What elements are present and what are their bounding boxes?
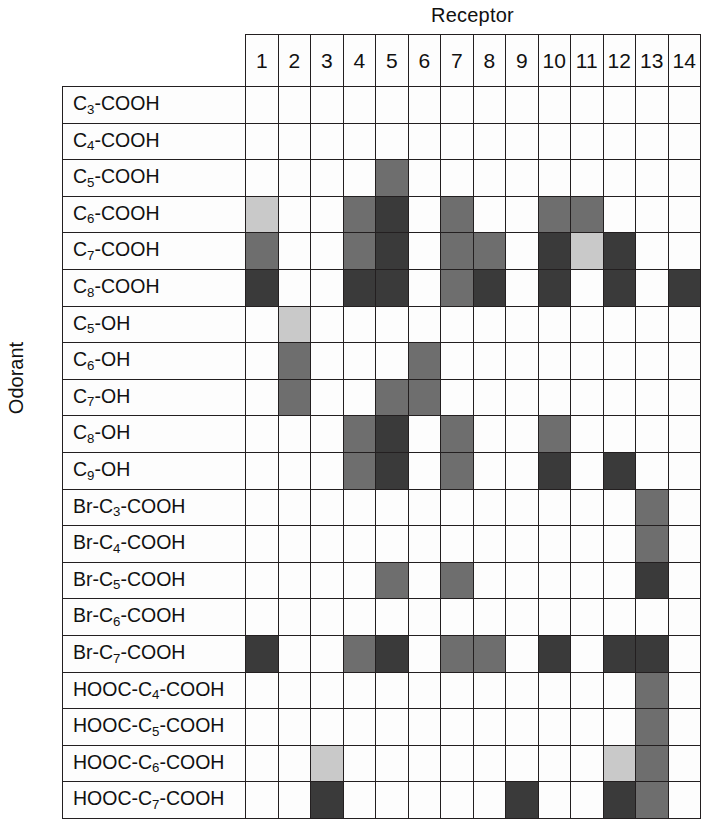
heatmap-cell xyxy=(636,196,669,233)
heatmap-cell xyxy=(408,416,441,453)
heatmap-cell xyxy=(473,489,506,526)
odorant-row-label: Br-C7-COOH xyxy=(63,635,246,672)
heatmap-cell xyxy=(571,745,604,782)
heatmap-cell xyxy=(246,635,279,672)
heatmap-cell xyxy=(506,489,539,526)
heatmap-cell xyxy=(668,379,701,416)
heatmap-cell xyxy=(571,306,604,343)
heatmap-cell xyxy=(311,269,344,306)
heatmap-cell xyxy=(473,123,506,160)
heatmap-cell xyxy=(506,379,539,416)
heatmap-cell xyxy=(636,709,669,746)
heatmap-cell xyxy=(376,489,409,526)
heatmap-cell xyxy=(441,87,474,124)
heatmap-cell xyxy=(441,599,474,636)
heatmap-cell xyxy=(636,672,669,709)
heatmap-cell xyxy=(441,672,474,709)
heatmap-cell xyxy=(571,269,604,306)
odorant-row-label: C4-COOH xyxy=(63,123,246,160)
heatmap-cell xyxy=(311,343,344,380)
heatmap-cell xyxy=(278,160,311,197)
odorant-row-label: Br-C4-COOH xyxy=(63,526,246,563)
heatmap-cell xyxy=(376,233,409,270)
heatmap-cell xyxy=(636,526,669,563)
heatmap-cell xyxy=(473,87,506,124)
heatmap-cell xyxy=(603,782,636,819)
heatmap-cell xyxy=(506,306,539,343)
heatmap-cell xyxy=(538,123,571,160)
heatmap-cell xyxy=(376,416,409,453)
heatmap-cell xyxy=(506,526,539,563)
heatmap-cell xyxy=(473,745,506,782)
heatmap-cell xyxy=(571,160,604,197)
heatmap-cell xyxy=(408,782,441,819)
heatmap-cell xyxy=(636,635,669,672)
heatmap-cell xyxy=(408,306,441,343)
heatmap-cell xyxy=(571,672,604,709)
heatmap-cell xyxy=(441,123,474,160)
heatmap-cell xyxy=(408,160,441,197)
heatmap-cell xyxy=(311,87,344,124)
heatmap-cell xyxy=(376,379,409,416)
heatmap-cell xyxy=(311,599,344,636)
matrix-row: Br-C7-COOH xyxy=(63,635,701,672)
matrix-row: C5-OH xyxy=(63,306,701,343)
heatmap-cell xyxy=(603,635,636,672)
heatmap-cell xyxy=(571,489,604,526)
heatmap-cell xyxy=(506,160,539,197)
heatmap-cell xyxy=(278,489,311,526)
matrix-row: C9-OH xyxy=(63,452,701,489)
heatmap-cell xyxy=(408,709,441,746)
heatmap-cell xyxy=(343,526,376,563)
receptor-column-header: 8 xyxy=(473,35,506,87)
heatmap-cell xyxy=(473,379,506,416)
heatmap-cell xyxy=(311,489,344,526)
heatmap-cell xyxy=(571,343,604,380)
heatmap-cell xyxy=(246,233,279,270)
heatmap-cell xyxy=(636,782,669,819)
heatmap-cell xyxy=(571,782,604,819)
heatmap-cell xyxy=(473,709,506,746)
heatmap-cell xyxy=(343,452,376,489)
matrix-row: C3-COOH xyxy=(63,87,701,124)
heatmap-cell xyxy=(603,599,636,636)
heatmap-cell xyxy=(538,745,571,782)
heatmap-cell xyxy=(668,672,701,709)
receptor-column-header: 9 xyxy=(506,35,539,87)
heatmap-cell xyxy=(441,233,474,270)
odorant-row-label: C7-OH xyxy=(63,379,246,416)
heatmap-cell xyxy=(343,782,376,819)
heatmap-cell xyxy=(376,745,409,782)
heatmap-cell xyxy=(311,709,344,746)
heatmap-cell xyxy=(441,343,474,380)
heatmap-cell xyxy=(441,562,474,599)
heatmap-cell xyxy=(571,87,604,124)
heatmap-cell xyxy=(506,782,539,819)
heatmap-cell xyxy=(538,562,571,599)
heatmap-cell xyxy=(668,489,701,526)
heatmap-cell xyxy=(278,672,311,709)
heatmap-cell xyxy=(246,269,279,306)
heatmap-cell xyxy=(571,526,604,563)
receptor-column-header: 1 xyxy=(246,35,279,87)
heatmap-cell xyxy=(311,233,344,270)
heatmap-cell xyxy=(311,782,344,819)
heatmap-cell xyxy=(506,416,539,453)
matrix-row: C8-COOH xyxy=(63,269,701,306)
heatmap-cell xyxy=(246,379,279,416)
heatmap-cell xyxy=(311,635,344,672)
heatmap-cell xyxy=(538,269,571,306)
heatmap-cell xyxy=(311,379,344,416)
heatmap-cell xyxy=(343,745,376,782)
receptor-column-header: 2 xyxy=(278,35,311,87)
heatmap-cell xyxy=(278,526,311,563)
heatmap-cell xyxy=(343,233,376,270)
heatmap-cell xyxy=(603,343,636,380)
heatmap-cell xyxy=(246,306,279,343)
heatmap-cell xyxy=(246,526,279,563)
matrix-row: Br-C3-COOH xyxy=(63,489,701,526)
heatmap-cell xyxy=(668,562,701,599)
heatmap-cell xyxy=(571,709,604,746)
heatmap-cell xyxy=(343,599,376,636)
odorant-row-label: C3-COOH xyxy=(63,87,246,124)
